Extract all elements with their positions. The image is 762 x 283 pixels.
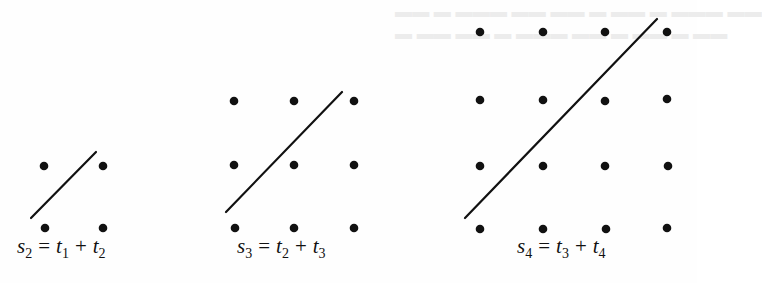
label-lhs-sub: 2 bbox=[25, 246, 32, 261]
grid-dot bbox=[539, 162, 548, 171]
grid-dot bbox=[476, 96, 485, 105]
grid-dot bbox=[41, 224, 50, 233]
grid-dot bbox=[476, 225, 485, 234]
label-plus: + bbox=[575, 234, 587, 258]
diagram-s2 bbox=[31, 152, 107, 232]
label-term-a-sub: 1 bbox=[62, 246, 69, 261]
grid-dot bbox=[539, 28, 548, 37]
label-plus: + bbox=[75, 234, 87, 258]
grid-dot bbox=[601, 162, 610, 171]
grid-dot bbox=[230, 97, 239, 106]
grid-dot bbox=[539, 96, 548, 105]
grid-dot bbox=[350, 97, 359, 106]
label-term-b-sub: 2 bbox=[99, 246, 106, 261]
label-lhs-sub: 4 bbox=[525, 246, 532, 261]
label-term-a-sub: 3 bbox=[562, 246, 569, 261]
grid-dot bbox=[602, 225, 611, 234]
diagonal-line bbox=[31, 152, 96, 218]
grid-dot bbox=[99, 162, 108, 171]
grid-dot bbox=[663, 28, 672, 37]
label-lhs: s bbox=[17, 234, 25, 258]
grid-dot bbox=[539, 225, 548, 234]
grid-dot bbox=[601, 97, 610, 106]
diagram-s3 bbox=[226, 92, 358, 232]
grid-dot bbox=[290, 97, 299, 106]
grid-dot bbox=[476, 162, 485, 171]
grid-dot bbox=[230, 161, 239, 170]
grid-dot bbox=[664, 162, 673, 171]
grid-dot bbox=[663, 95, 672, 104]
label-equals: = bbox=[538, 234, 550, 258]
grid-dot bbox=[663, 224, 672, 233]
grid-dot bbox=[476, 28, 485, 37]
label-s4: s4=t3+t4 bbox=[517, 234, 606, 262]
label-lhs: s bbox=[517, 234, 525, 258]
grid-dot bbox=[40, 162, 49, 171]
label-lhs: s bbox=[237, 234, 245, 258]
grid-dot bbox=[350, 224, 359, 233]
grid-dot bbox=[601, 28, 610, 37]
label-s3: s3=t2+t3 bbox=[237, 234, 326, 262]
label-term-b-sub: 3 bbox=[319, 246, 326, 261]
grid-dot bbox=[231, 224, 240, 233]
diagonal-line bbox=[465, 19, 657, 218]
label-lhs-sub: 3 bbox=[245, 246, 252, 261]
label-s2: s2=t1+t2 bbox=[17, 234, 106, 262]
label-term-a-sub: 2 bbox=[282, 246, 289, 261]
label-equals: = bbox=[38, 234, 50, 258]
grid-dot bbox=[99, 224, 108, 233]
grid-dot bbox=[290, 224, 299, 233]
label-term-b-sub: 4 bbox=[599, 246, 606, 261]
label-plus: + bbox=[295, 234, 307, 258]
grid-dot bbox=[350, 161, 359, 170]
label-equals: = bbox=[258, 234, 270, 258]
diagram-s4 bbox=[465, 19, 672, 233]
grid-dot bbox=[290, 161, 299, 170]
diagonal-line bbox=[226, 92, 342, 212]
